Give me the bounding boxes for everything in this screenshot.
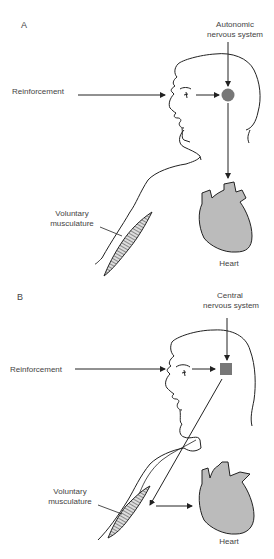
panel-b-head-outline <box>166 330 256 426</box>
panel-a-body-outline <box>95 157 200 264</box>
panel-b-central-marker <box>220 363 232 375</box>
panel-a-muscle-leader <box>100 227 122 236</box>
panel-a <box>78 42 260 276</box>
panel-b-eye <box>176 365 190 376</box>
panel-b-muscle-leader <box>98 505 122 514</box>
panel-a-muscle <box>104 212 152 276</box>
panel-b-muscle <box>108 486 150 538</box>
panel-a-autonomic-marker <box>222 89 235 102</box>
panel-a-eye <box>180 88 191 99</box>
panel-b-neck <box>180 424 201 448</box>
diagram-canvas <box>0 0 274 559</box>
panel-b-heart <box>199 462 254 534</box>
panel-a-heart <box>199 182 252 252</box>
panel-a-head-outline <box>169 54 260 143</box>
panel-b <box>75 318 255 540</box>
